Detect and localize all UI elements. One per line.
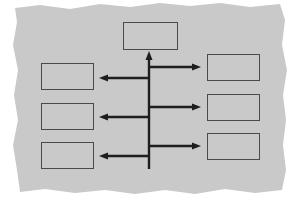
right-arrowhead-icon [192,64,201,71]
arrow-connectors [0,0,298,198]
left-arrowhead-icon [99,114,108,121]
right-arrowhead-icon [192,143,201,150]
up-arrowhead-icon [146,51,153,60]
left-arrowhead-icon [99,75,108,82]
right-arrowhead-icon [192,104,201,111]
left-arrowhead-icon [99,153,108,160]
